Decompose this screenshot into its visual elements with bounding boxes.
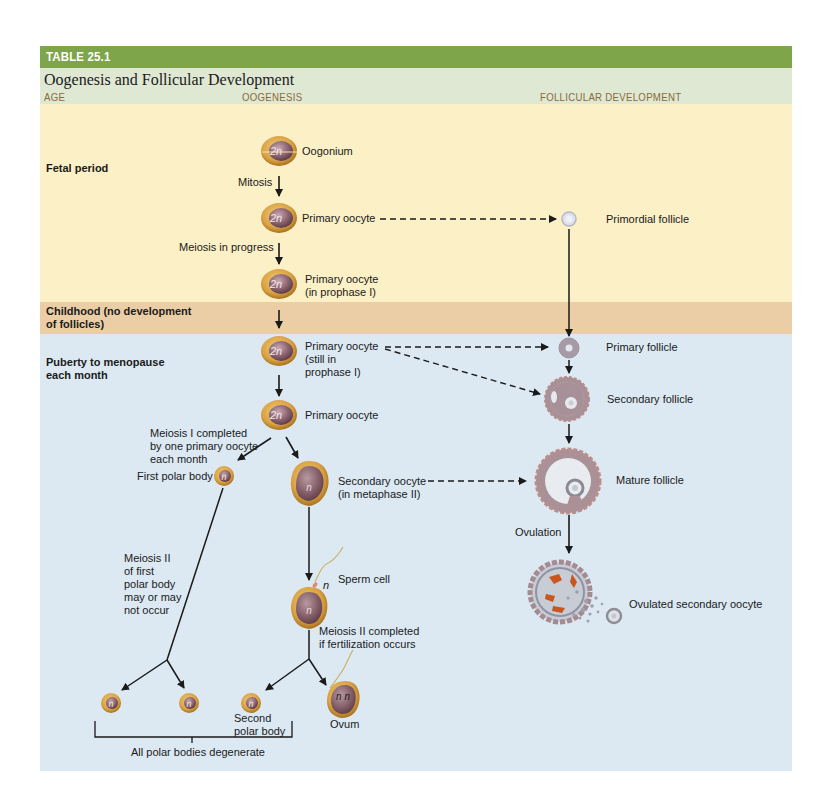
first-polar-body-cell-icon: n bbox=[214, 466, 234, 486]
svg-text:n: n bbox=[306, 605, 312, 616]
label-primary-oocyte-4: Primary oocyte bbox=[305, 409, 378, 422]
primary-oocyte-still-prophase-cell-icon: 2n bbox=[261, 336, 297, 366]
label-meiosis-ii-line1: Meiosis II completed bbox=[319, 625, 419, 638]
label-ovulation: Ovulation bbox=[515, 526, 561, 539]
svg-text:n n: n n bbox=[336, 691, 350, 702]
ovulated-follicle-icon bbox=[530, 562, 603, 623]
label-primary-oocyte-3-line1: Primary oocyte bbox=[305, 340, 378, 353]
label-meiosis-ii-polar-line1: Meiosis II bbox=[124, 552, 170, 565]
label-secondary-follicle: Secondary follicle bbox=[607, 393, 693, 406]
primary-oocyte-cell-icon: 2n bbox=[261, 203, 297, 233]
age-puberty-line1: Puberty to menopause bbox=[46, 356, 165, 369]
label-primary-oocyte-2-line1: Primary oocyte bbox=[305, 273, 378, 286]
ovulated-secondary-oocyte-icon bbox=[607, 609, 621, 623]
polar-body-degenerate-1-icon: n bbox=[101, 693, 121, 713]
label-mitosis: Mitosis bbox=[238, 176, 272, 189]
ovum-cell-icon: n n bbox=[327, 681, 360, 718]
label-ovulated-secondary-oocyte: Ovulated secondary oocyte bbox=[629, 598, 762, 611]
label-primary-oocyte-3-line2: (still in bbox=[305, 353, 336, 366]
age-fetal-period: Fetal period bbox=[46, 162, 108, 175]
label-primordial-follicle: Primordial follicle bbox=[606, 213, 689, 226]
label-primary-oocyte-3-line3: prophase I) bbox=[305, 366, 361, 379]
label-meiosis-ii-polar-line4: may or may bbox=[124, 591, 181, 604]
label-primary-follicle: Primary follicle bbox=[606, 341, 678, 354]
label-mature-follicle: Mature follicle bbox=[616, 474, 684, 487]
oogonium-cell-icon: 2n bbox=[261, 136, 297, 166]
primary-follicle-icon bbox=[559, 338, 579, 358]
svg-text:2n: 2n bbox=[269, 278, 282, 290]
label-sperm-cell: Sperm cell bbox=[338, 573, 390, 586]
label-all-polar-bodies-degenerate: All polar bodies degenerate bbox=[131, 746, 265, 759]
label-primary-oocyte-2-line2: (in prophase I) bbox=[305, 286, 376, 299]
label-first-polar-body: First polar body bbox=[137, 470, 213, 483]
label-second-polar-body-line2: polar body bbox=[234, 725, 285, 738]
label-oogonium: Oogonium bbox=[302, 145, 353, 158]
age-childhood-line1: Childhood (no development bbox=[46, 305, 191, 318]
oogenesis-diagram: 2n 2n 2n 2n 2n n n bbox=[0, 0, 832, 810]
secondary-follicle-icon bbox=[545, 377, 589, 421]
secondary-oocyte-cell-icon: n bbox=[291, 461, 329, 506]
label-meiosis-i-line1: Meiosis I completed bbox=[150, 427, 247, 440]
svg-text:2n: 2n bbox=[269, 345, 282, 357]
svg-text:n: n bbox=[248, 699, 253, 709]
label-meiosis-ii-line2: if fertilization occurs bbox=[319, 638, 416, 651]
label-meiosis-i-line2: by one primary oocyte bbox=[150, 440, 258, 453]
age-puberty-line2: each month bbox=[46, 369, 108, 382]
label-secondary-oocyte-line1: Secondary oocyte bbox=[338, 475, 426, 488]
label-primary-oocyte-1: Primary oocyte bbox=[302, 212, 375, 225]
svg-text:n: n bbox=[221, 472, 226, 482]
svg-text:n: n bbox=[306, 482, 312, 493]
svg-text:2n: 2n bbox=[269, 212, 282, 224]
polar-body-degenerate-2-icon: n bbox=[179, 693, 199, 713]
label-meiosis-i-line3: each month bbox=[150, 453, 207, 466]
svg-text:2n: 2n bbox=[269, 145, 282, 157]
svg-text:n: n bbox=[108, 699, 113, 709]
svg-text:n: n bbox=[186, 699, 191, 709]
primary-oocyte-prophase-cell-icon: 2n bbox=[261, 269, 297, 299]
fertilized-oocyte-cell-icon: n bbox=[291, 587, 327, 629]
primary-oocyte-puberty-cell-icon: 2n bbox=[261, 400, 297, 430]
svg-text:2n: 2n bbox=[269, 409, 282, 421]
label-second-polar-body-line1: Second bbox=[234, 712, 271, 725]
primordial-follicle-icon bbox=[562, 212, 576, 226]
label-meiosis-ii-polar-line2: of first bbox=[124, 565, 154, 578]
second-polar-body-cell-icon: n bbox=[241, 693, 261, 713]
mature-follicle-icon bbox=[536, 449, 600, 513]
label-secondary-oocyte-line2: (in metaphase II) bbox=[338, 488, 421, 501]
label-meiosis-in-progress: Meiosis in progress bbox=[179, 241, 274, 254]
label-ovum: Ovum bbox=[330, 718, 359, 731]
label-meiosis-ii-polar-line3: polar body bbox=[124, 578, 175, 591]
svg-text:n: n bbox=[323, 579, 329, 591]
label-meiosis-ii-polar-line5: not occur bbox=[124, 604, 169, 617]
age-childhood-line2: of follicles) bbox=[46, 318, 104, 331]
